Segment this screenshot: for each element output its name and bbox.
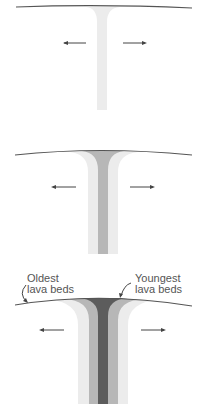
panel-stage-3 [15, 283, 192, 404]
arrow-right [123, 41, 147, 45]
arrow-right [130, 185, 155, 189]
panel-stage-1 [16, 6, 192, 110]
arrow-left [39, 328, 64, 332]
arrow-left [51, 185, 76, 189]
oldest-lava-beds-label: Oldest lava beds [27, 273, 74, 295]
spreading-diagram [0, 0, 208, 419]
youngest-leader-arrowhead [119, 293, 123, 298]
youngest-lava-beds-label: Youngest lava beds [135, 273, 182, 295]
arrow-right [141, 328, 166, 332]
arrow-left [63, 41, 86, 45]
dike-band-oldest [86, 7, 120, 110]
panel-stage-2 [15, 151, 192, 255]
